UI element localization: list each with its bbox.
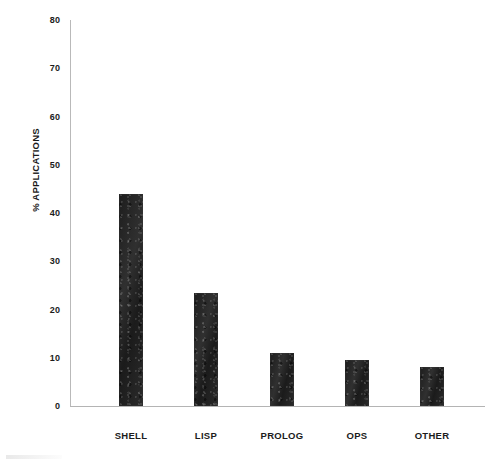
y-axis-tick-label: 0: [26, 401, 60, 411]
y-axis-tick: 60: [26, 112, 60, 122]
y-axis-tick-label: 20: [26, 305, 60, 315]
y-axis-tick: 70: [26, 63, 60, 73]
plot-area: [70, 20, 485, 406]
bar: [345, 360, 369, 406]
bar: [119, 194, 143, 406]
x-axis-tick: OTHER: [387, 430, 477, 442]
y-axis-tick-label: 40: [26, 208, 60, 218]
y-axis-tick-label: 70: [26, 63, 60, 73]
y-axis-tick-label: 80: [26, 15, 60, 25]
y-axis-tick: 10: [26, 353, 60, 363]
y-axis-tick: 20: [26, 305, 60, 315]
bar: [194, 293, 218, 406]
bar: [420, 367, 444, 406]
x-axis-line: [70, 406, 485, 407]
y-axis-tick: 40: [26, 208, 60, 218]
y-axis-tick: 30: [26, 256, 60, 266]
y-axis-tick-label: 30: [26, 256, 60, 266]
y-axis-title: % APPLICATIONS: [29, 50, 43, 290]
y-axis-tick-label: 60: [26, 112, 60, 122]
bar-chart: % APPLICATIONS 01020304050607080 SHELLLI…: [0, 0, 492, 469]
bar: [270, 353, 294, 406]
y-axis-tick: 80: [26, 15, 60, 25]
y-axis-tick-label: 50: [26, 160, 60, 170]
x-axis-tick-label: OTHER: [387, 430, 477, 442]
scan-artifact: [6, 455, 62, 459]
y-axis-tick: 0: [26, 401, 60, 411]
y-axis-tick-label: 10: [26, 353, 60, 363]
y-axis-tick: 50: [26, 160, 60, 170]
